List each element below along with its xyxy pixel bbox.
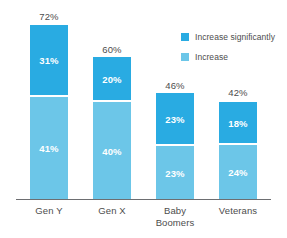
segment-label-increase-veterans: 24%: [219, 167, 257, 178]
bar-segment-increase-gen-y[interactable]: 41%: [30, 97, 68, 199]
total-label-gen-y: 72%: [22, 11, 76, 22]
bar-stack-gen-x: 20% 40%: [93, 57, 131, 199]
bar-segment-increase-significantly-veterans[interactable]: 18%: [219, 102, 257, 145]
segment-label-increase-gen-x: 40%: [93, 145, 131, 156]
plot-area: 72% 31% 41% 60% 20% 40%: [0, 0, 287, 200]
total-label-baby-boomers: 46%: [148, 80, 202, 91]
bar-segment-increase-baby-boomers[interactable]: 23%: [156, 146, 194, 199]
legend-label-increase: Increase: [195, 52, 228, 62]
legend: Increase significantly Increase: [181, 32, 275, 72]
legend-swatch-increase-significantly-icon: [181, 33, 189, 41]
category-label-baby-boomers-line2: Boomers: [138, 217, 212, 229]
bar-stack-gen-y: 31% 41%: [30, 25, 68, 199]
bar-segment-increase-significantly-gen-x[interactable]: 20%: [93, 57, 131, 102]
segment-label-increase-significantly-gen-x: 20%: [93, 73, 131, 84]
legend-swatch-increase-icon: [181, 53, 189, 61]
bar-stack-veterans: 18% 24%: [219, 102, 257, 199]
legend-item-increase-significantly[interactable]: Increase significantly: [181, 32, 275, 42]
segment-label-increase-significantly-gen-y: 31%: [30, 55, 68, 66]
total-label-gen-x: 60%: [85, 44, 139, 55]
category-label-veterans-line1: Veterans: [201, 205, 275, 217]
stacked-bar-chart: 72% 31% 41% 60% 20% 40%: [0, 0, 287, 238]
segment-label-increase-significantly-veterans: 18%: [219, 117, 257, 128]
legend-label-increase-significantly: Increase significantly: [195, 32, 275, 42]
x-axis-line: [16, 199, 271, 200]
legend-item-increase[interactable]: Increase: [181, 52, 275, 62]
bar-segment-increase-veterans[interactable]: 24%: [219, 145, 257, 199]
bar-stack-baby-boomers: 23% 23%: [156, 93, 194, 199]
segment-label-increase-gen-y: 41%: [30, 143, 68, 154]
bar-segment-increase-gen-x[interactable]: 40%: [93, 102, 131, 199]
bar-segment-increase-significantly-gen-y[interactable]: 31%: [30, 25, 68, 97]
total-label-veterans: 42%: [211, 87, 265, 98]
segment-label-increase-significantly-baby-boomers: 23%: [156, 113, 194, 124]
category-label-veterans: Veterans: [201, 205, 275, 217]
segment-label-increase-baby-boomers: 23%: [156, 167, 194, 178]
bar-segment-increase-significantly-baby-boomers[interactable]: 23%: [156, 93, 194, 146]
